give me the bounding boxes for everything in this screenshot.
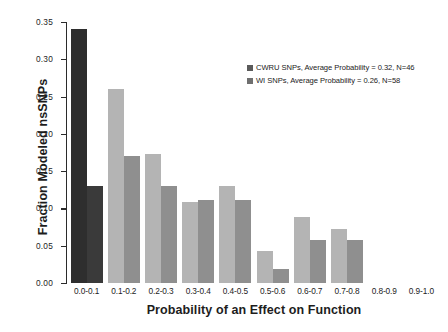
y-axis-tick: 0.15 xyxy=(61,171,67,172)
legend-label: CWRU SNPs, Average Probability = 0.32, N… xyxy=(256,63,415,72)
bar xyxy=(161,186,177,283)
bar xyxy=(145,154,161,283)
x-axis-tick-label: 0.3-0.4 xyxy=(180,286,217,296)
bar xyxy=(182,202,198,283)
y-axis-tick-label: 0.25 xyxy=(36,92,53,102)
bar xyxy=(219,186,235,283)
bar xyxy=(331,229,347,283)
legend-swatch-icon xyxy=(247,65,253,71)
y-axis-tick-label: 0.30 xyxy=(36,54,53,64)
y-axis-tick-label: 0.10 xyxy=(36,203,53,213)
y-axis-tick: 0.05 xyxy=(61,246,67,247)
legend-item: WI SNPs, Average Probability = 0.26, N=5… xyxy=(247,74,415,87)
bar-group xyxy=(142,22,179,283)
x-axis-tick-label: 0.7-0.8 xyxy=(328,286,365,296)
bar xyxy=(108,89,124,283)
x-axis-title: Probability of an Effect on Function xyxy=(68,303,440,317)
bar xyxy=(235,200,251,283)
bar xyxy=(71,29,87,283)
legend-label: WI SNPs, Average Probability = 0.26, N=5… xyxy=(256,76,400,85)
bar xyxy=(87,186,103,283)
y-axis-tick-label: 0.05 xyxy=(36,241,53,251)
y-axis-tick: 0.00 xyxy=(61,283,67,284)
x-axis-tick-label: 0.6-0.7 xyxy=(291,286,328,296)
x-axis-tick-label: 0.9-1.0 xyxy=(403,286,440,296)
bar xyxy=(124,156,140,283)
bar-chart-figure: Fraction Modeled nsSNPs 0.000.050.100.15… xyxy=(0,0,448,332)
x-axis-tick-labels: 0.0-0.10.1-0.20.2-0.30.3-0.40.4-0.50.5-0… xyxy=(68,286,440,296)
y-axis-tick-label: 0.00 xyxy=(36,278,53,288)
y-axis-tick: 0.25 xyxy=(61,97,67,98)
bar xyxy=(294,217,310,283)
y-axis-tick: 0.10 xyxy=(61,208,67,209)
x-axis-tick-label: 0.4-0.5 xyxy=(217,286,254,296)
legend-swatch-icon xyxy=(247,78,253,84)
y-axis-tick: 0.35 xyxy=(61,22,67,23)
y-axis-tick: 0.30 xyxy=(61,59,67,60)
y-axis-tick-label: 0.15 xyxy=(36,166,53,176)
bar xyxy=(198,200,214,283)
bar-group xyxy=(180,22,217,283)
x-axis-tick-label: 0.1-0.2 xyxy=(105,286,142,296)
bar xyxy=(257,251,273,283)
x-axis-tick-label: 0.0-0.1 xyxy=(68,286,105,296)
bar-group xyxy=(68,22,105,283)
chart-legend: CWRU SNPs, Average Probability = 0.32, N… xyxy=(247,61,415,87)
x-axis-tick-label: 0.2-0.3 xyxy=(142,286,179,296)
legend-item: CWRU SNPs, Average Probability = 0.32, N… xyxy=(247,61,415,74)
x-axis-tick-label: 0.5-0.6 xyxy=(254,286,291,296)
bar xyxy=(273,269,289,283)
y-axis-tick-label: 0.35 xyxy=(36,17,53,27)
bar xyxy=(310,240,326,283)
y-axis-tick: 0.20 xyxy=(61,134,67,135)
bar-group xyxy=(105,22,142,283)
bar xyxy=(347,240,363,283)
x-axis-tick-label: 0.8-0.9 xyxy=(366,286,403,296)
y-axis-tick-label: 0.20 xyxy=(36,129,53,139)
